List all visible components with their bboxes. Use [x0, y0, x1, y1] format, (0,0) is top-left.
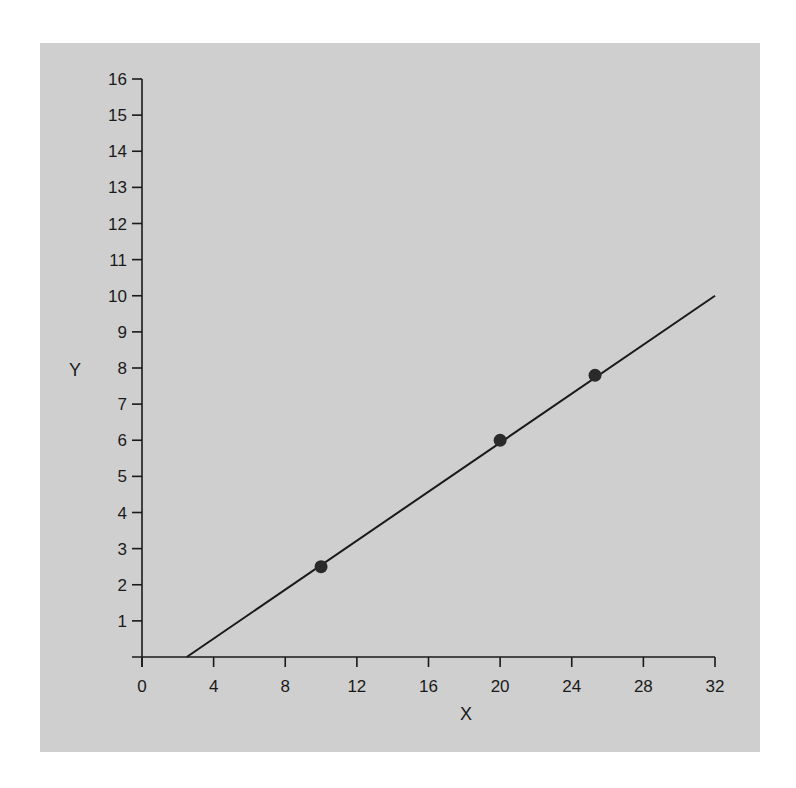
y-tick-label: 3 [118, 540, 127, 559]
data-point [315, 560, 328, 573]
x-tick-label: 8 [281, 677, 290, 696]
regression-line [187, 296, 715, 657]
x-axis-title: X [460, 704, 472, 724]
y-tick-label: 6 [118, 431, 127, 450]
x-tick-label: 0 [137, 677, 146, 696]
x-tick-label: 32 [706, 677, 725, 696]
data-point [589, 369, 602, 382]
y-tick-label: 11 [109, 251, 127, 270]
y-tick-label: 7 [118, 395, 127, 414]
line-chart: 12345678910111213141516 048121620242832 … [0, 0, 796, 788]
data-series [187, 296, 715, 657]
data-point [494, 434, 507, 447]
y-tick-label: 16 [108, 70, 127, 89]
y-tick-label: 9 [118, 323, 127, 342]
y-tick-label: 12 [108, 215, 127, 234]
x-tick-label: 12 [347, 677, 366, 696]
y-axis: 12345678910111213141516 [108, 70, 142, 667]
y-tick-label: 5 [118, 467, 127, 486]
x-tick-label: 24 [562, 677, 581, 696]
y-tick-label: 8 [118, 359, 127, 378]
y-tick-label: 13 [108, 178, 127, 197]
y-tick-label: 1 [118, 612, 127, 631]
x-tick-label: 28 [634, 677, 653, 696]
y-tick-label: 10 [108, 287, 127, 306]
y-tick-label: 4 [118, 504, 127, 523]
y-axis-title: Y [69, 360, 81, 380]
x-tick-label: 20 [491, 677, 510, 696]
x-axis: 048121620242832 [132, 657, 724, 696]
y-tick-label: 2 [118, 576, 127, 595]
x-tick-label: 4 [209, 677, 218, 696]
y-tick-label: 14 [108, 142, 127, 161]
x-tick-label: 16 [419, 677, 438, 696]
y-tick-label: 15 [108, 106, 127, 125]
